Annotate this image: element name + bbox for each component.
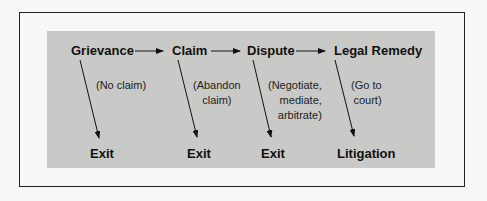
note-abandon-claim: (Abandon claim)	[193, 78, 241, 108]
note-no-claim: (No claim)	[96, 78, 146, 93]
note-go-to-court: (Go to court)	[351, 78, 382, 108]
outcome-exit-3: Exit	[261, 146, 285, 161]
arrow-grievance-exit	[80, 60, 99, 138]
stage-claim: Claim	[172, 43, 207, 58]
stage-dispute: Dispute	[247, 43, 295, 58]
outcome-litigation: Litigation	[337, 146, 396, 161]
stage-legal-remedy: Legal Remedy	[334, 43, 422, 58]
arrows-layer	[0, 0, 487, 201]
note-negotiate: (Negotiate, mediate, arbitrate)	[268, 78, 322, 123]
stage-grievance: Grievance	[71, 43, 134, 58]
outcome-exit-1: Exit	[90, 146, 114, 161]
outcome-exit-2: Exit	[187, 146, 211, 161]
